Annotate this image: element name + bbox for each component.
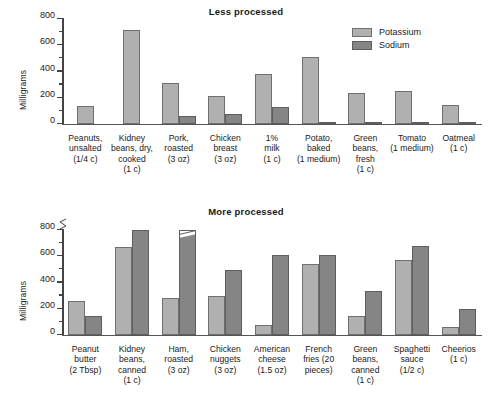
x-axis-line-bottom [62, 335, 482, 337]
y-tick-label-800-top: 800 [40, 10, 55, 20]
bar-group-top-4 [249, 19, 296, 124]
legend-swatch-potassium-icon [352, 28, 372, 37]
bar-potassium-bottom-8 [442, 327, 459, 334]
y-tick-label-400-top: 400 [40, 63, 55, 73]
bar-potassium-top-3 [208, 96, 225, 124]
bar-sodium-top-4 [272, 107, 289, 123]
bar-potassium-bottom-0 [68, 301, 85, 334]
legend-label-potassium: Potassium [379, 27, 421, 37]
y-tick-label-600-top: 600 [40, 36, 55, 46]
chart-panel-less-processed: Less processed Milligrams 0200400600800 … [0, 0, 492, 205]
bar-potassium-bottom-5 [302, 264, 319, 334]
bar-potassium-bottom-7 [395, 260, 412, 334]
x-axis-line-top [62, 124, 482, 126]
y-tick-label-600-bottom: 600 [40, 247, 55, 257]
bar-group-container-bottom [62, 230, 482, 335]
bar-group-top-5 [295, 19, 342, 124]
bar-potassium-top-2 [162, 83, 179, 124]
chart-title-less-processed: Less processed [0, 6, 492, 17]
bar-group-bottom-5 [295, 230, 342, 335]
bar-group-top-0 [62, 19, 109, 124]
bar-potassium-top-4 [255, 74, 272, 124]
legend-item-potassium: Potassium [352, 27, 421, 37]
bar-sodium-bottom-0 [85, 316, 102, 334]
y-axis-label-top: Milligrams [18, 70, 28, 110]
bar-group-bottom-6 [342, 230, 389, 335]
bar-potassium-top-5 [302, 57, 319, 124]
bar-potassium-top-6 [348, 93, 365, 123]
y-tick-label-0-top: 0 [50, 115, 55, 125]
bar-potassium-bottom-3 [208, 296, 225, 334]
bar-group-bottom-0 [62, 230, 109, 335]
bar-sodium-bottom-7 [412, 246, 429, 335]
bar-group-bottom-1 [109, 230, 156, 335]
legend-label-sodium: Sodium [379, 40, 410, 50]
bar-sodium-top-2 [179, 116, 196, 124]
bar-sodium-bottom-6 [365, 291, 382, 334]
y-tick-label-800-bottom: 800 [40, 221, 55, 231]
bar-group-top-1 [109, 19, 156, 124]
chart-panel-more-processed: More processed Milligrams 0200400600800 … [0, 205, 492, 419]
y-tick-label-400-bottom: 400 [40, 274, 55, 284]
plot-area-more-processed: 0200400600800 [62, 231, 482, 336]
bar-potassium-top-8 [442, 105, 459, 123]
bar-group-top-3 [202, 19, 249, 124]
bar-potassium-bottom-6 [348, 316, 365, 334]
x-label-bottom-8: Cheerios (1 c) [431, 344, 486, 365]
chart-title-more-processed: More processed [0, 206, 492, 217]
bar-potassium-top-1 [123, 30, 140, 123]
bar-sodium-bottom-2 [179, 230, 196, 335]
bar-sodium-top-5 [319, 122, 336, 124]
bar-sodium-bottom-5 [319, 255, 336, 334]
bar-group-top-2 [155, 19, 202, 124]
legend-swatch-sodium-icon [352, 41, 372, 50]
legend: Potassium Sodium [352, 27, 421, 53]
x-label-top-8: Oatmeal (1 c) [431, 133, 486, 154]
bar-group-bottom-7 [389, 230, 436, 335]
bar-potassium-top-7 [395, 91, 412, 124]
bar-potassium-bottom-4 [255, 325, 272, 335]
bar-potassium-top-0 [77, 106, 94, 123]
bar-sodium-top-8 [459, 122, 476, 124]
legend-item-sodium: Sodium [352, 40, 421, 50]
bar-group-bottom-2 [155, 230, 202, 335]
y-axis-label-bottom: Milligrams [18, 281, 28, 321]
bar-potassium-bottom-1 [115, 247, 132, 335]
y-tick-label-200-top: 200 [40, 89, 55, 99]
bar-sodium-top-7 [412, 122, 429, 124]
bar-group-top-8 [435, 19, 482, 124]
bar-sodium-bottom-4 [272, 255, 289, 334]
y-tick-label-200-bottom: 200 [40, 300, 55, 310]
bar-potassium-bottom-2 [162, 298, 179, 334]
bar-sodium-bottom-3 [225, 270, 242, 335]
bar-group-bottom-4 [249, 230, 296, 335]
bar-sodium-bottom-8 [459, 309, 476, 335]
bar-group-bottom-3 [202, 230, 249, 335]
y-tick-label-0-bottom: 0 [50, 326, 55, 336]
bar-sodium-top-6 [365, 122, 382, 124]
bar-group-bottom-8 [435, 230, 482, 335]
bar-sodium-top-3 [225, 114, 242, 123]
bar-sodium-bottom-1 [132, 230, 149, 335]
